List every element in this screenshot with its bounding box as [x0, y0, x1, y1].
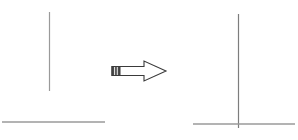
diagram-canvas [0, 0, 298, 140]
diagram-svg [0, 0, 298, 140]
right-panel-after-state [193, 14, 295, 128]
transformation-arrow [112, 61, 166, 81]
arrow-tail-block [112, 67, 120, 76]
left-panel-before-state [2, 12, 105, 122]
